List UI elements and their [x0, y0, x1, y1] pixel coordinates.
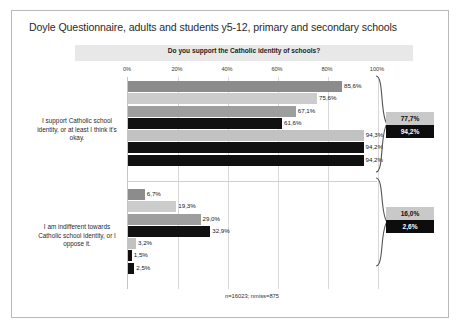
bar — [128, 263, 134, 274]
bar-row: 19,3% — [128, 201, 377, 212]
bar-value-label: 67,1% — [298, 107, 316, 114]
x-axis-tick: 0% — [123, 66, 131, 72]
bar-value-label: 19,3% — [178, 202, 196, 209]
bar-value-label: 75,6% — [319, 94, 337, 101]
bar-row: 85,6% — [128, 81, 377, 92]
bar — [128, 106, 296, 117]
page-title: Doyle Questionnaire, adults and students… — [29, 21, 437, 33]
x-axis-tick: 20% — [171, 66, 182, 72]
x-axis-ticks: 0%20%40%60%80%100% — [127, 66, 377, 76]
bar — [128, 93, 317, 104]
bar-row: 6,7% — [128, 189, 377, 200]
x-axis-tick: 60% — [271, 66, 282, 72]
bar — [128, 81, 342, 92]
bar — [128, 189, 145, 200]
category-label-support: I support Catholic school identity, or a… — [33, 117, 121, 143]
x-axis-tick: 100% — [370, 66, 384, 72]
chart-title: Do you support the Catholic identity of … — [75, 47, 413, 54]
summary-chip-dark-indifferent: 2,6% — [386, 220, 434, 233]
bar-value-label: 85,6% — [344, 82, 362, 89]
x-axis-tick: 40% — [221, 66, 232, 72]
bar-value-label: 3,2% — [138, 239, 152, 246]
bar-row: 61,6% — [128, 118, 377, 129]
plot-area: 85,6%75,6%67,1%61,6%94,3%94,2%94,2%6,7%1… — [127, 77, 377, 289]
bar-value-label: 29,0% — [203, 215, 221, 222]
bar-row: 32,9% — [128, 226, 377, 237]
summary-chip-light-indifferent: 16,0% — [386, 207, 434, 220]
bar — [128, 142, 364, 153]
slide-frame: Doyle Questionnaire, adults and students… — [11, 10, 449, 318]
bar-row: 1,5% — [128, 250, 377, 261]
bar-group: 85,6%75,6%67,1%61,6%94,3%94,2%94,2% — [128, 81, 377, 167]
bar-row: 94,2% — [128, 142, 377, 153]
bar-group: 6,7%19,3%29,0%32,9%3,2%1,5%2,5% — [128, 189, 377, 275]
bar — [128, 201, 176, 212]
bar-row: 94,2% — [128, 155, 377, 166]
group-separator — [127, 181, 377, 182]
bar-row: 29,0% — [128, 214, 377, 225]
x-axis-tick: 80% — [321, 66, 332, 72]
summary-chips-indifferent: 16,0% 2,6% — [386, 207, 434, 233]
bar-value-label: 32,9% — [212, 227, 230, 234]
bar-value-label: 1,5% — [134, 251, 148, 258]
bar — [128, 155, 364, 166]
bar-row: 2,5% — [128, 263, 377, 274]
bar-value-label: 61,6% — [284, 119, 302, 126]
bar — [128, 118, 282, 129]
bar — [128, 226, 210, 237]
summary-chip-dark-support: 94,2% — [386, 125, 434, 138]
bar — [128, 250, 132, 261]
bar — [128, 130, 364, 141]
summary-chips-support: 77,7% 94,2% — [386, 112, 434, 138]
category-label-indifferent: I am indifferent towards Catholic school… — [33, 223, 121, 249]
bar-row: 67,1% — [128, 106, 377, 117]
summary-chip-light-support: 77,7% — [386, 112, 434, 125]
bar-value-label: 6,7% — [147, 190, 161, 197]
bar-value-label: 2,5% — [136, 264, 150, 271]
chart: Do you support the Catholic identity of … — [31, 45, 431, 307]
bar — [128, 238, 136, 249]
bar-row: 94,3% — [128, 130, 377, 141]
bar-row: 75,6% — [128, 93, 377, 104]
bar-row: 3,2% — [128, 238, 377, 249]
bar — [128, 214, 201, 225]
chart-footnote: n=16023; nmiss=875 — [127, 293, 377, 299]
